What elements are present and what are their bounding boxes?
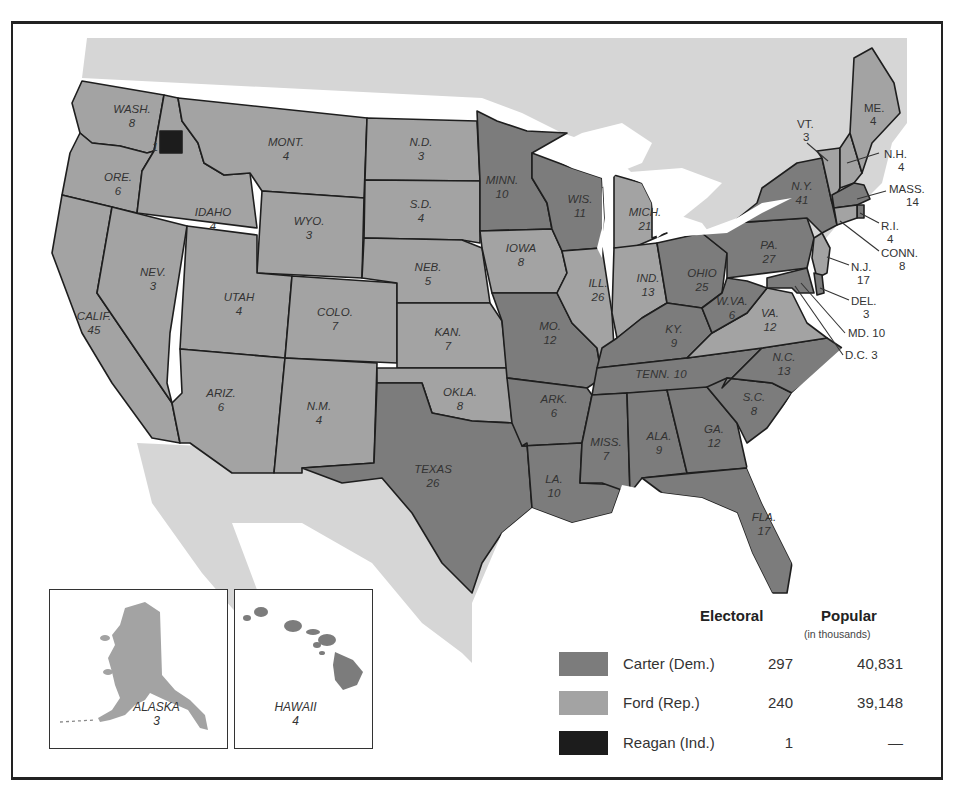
map-frame: WASH.8 1 ORE.6 CALIF.45 IDAHO4 NEV.3 MON… [11, 21, 943, 780]
reagan-swatch [559, 731, 608, 755]
svg-text:R.I.4: R.I.4 [881, 220, 899, 245]
state-nj [812, 233, 830, 278]
state-colo [285, 276, 397, 363]
legend-row-reagan: Reagan (Ind.) 1 — [543, 731, 913, 757]
state-ri [857, 205, 864, 218]
state-wash-reagan [160, 131, 182, 153]
svg-text:D.C. 3: D.C. 3 [845, 349, 878, 361]
legend: Electoral Popular (in thousands) Carter … [543, 607, 913, 757]
legend-electoral-header: Electoral [700, 607, 763, 624]
svg-text:1: 1 [152, 141, 158, 153]
state-ark [507, 378, 592, 446]
legend-row-carter: Carter (Dem.) 297 40,831 [543, 652, 913, 678]
svg-text:MD. 10: MD. 10 [848, 327, 885, 339]
alaska-inset: ALASKA3 [49, 589, 228, 749]
legend-row-ford: Ford (Rep.) 240 39,148 [543, 691, 913, 717]
ford-swatch [559, 691, 608, 715]
state-conn [834, 205, 857, 225]
svg-text:MASS.14: MASS.14 [889, 183, 925, 208]
svg-text:N.J.17: N.J.17 [851, 261, 871, 286]
legend-popular-subheader: (in thousands) [804, 628, 871, 640]
svg-text:CONN.8: CONN.8 [881, 247, 918, 272]
svg-text:TENN.10: TENN.10 [635, 368, 687, 380]
legend-popular-header: Popular [821, 607, 877, 624]
hawaii-inset: HAWAII4 [234, 589, 373, 749]
alaska-label: ALASKA3 [68, 700, 245, 728]
state-del [814, 273, 824, 295]
state-nm [274, 358, 377, 473]
carter-swatch [559, 652, 608, 676]
hawaii-label: HAWAII4 [227, 700, 364, 728]
